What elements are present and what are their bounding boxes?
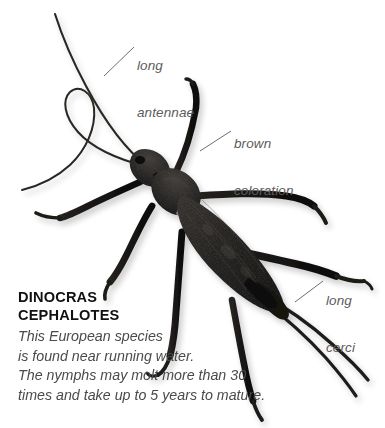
caption-line-3: The nymphs may molt more than 30 [18,365,352,385]
caption-block: DINOCRAS CEPHALOTES This European specie… [18,288,370,404]
annotation-antennae-line1: long [137,58,194,74]
leader-line-coloration [200,131,231,151]
caption-line-4: times and take up to 5 years to mature. [18,385,352,405]
caption-description: This European species is found near runn… [18,326,370,404]
antennae-group [22,14,148,190]
annotation-coloration-line1: brown [234,136,294,152]
figure-page: long antennae brown coloration long cerc… [0,0,385,428]
annotation-long-antennae: long antennae [137,27,194,151]
caption-line-2: is found near running water. [18,346,352,366]
annotation-coloration-line2: coloration [234,183,294,199]
species-epithet: CEPHALOTES [18,306,349,324]
annotation-antennae-line2: antennae [137,105,194,121]
species-genus: DINOCRAS [18,288,349,306]
caption-line-1: This European species [18,326,352,346]
annotation-brown-coloration: brown coloration [234,105,294,229]
leader-line-antennae [104,47,134,76]
